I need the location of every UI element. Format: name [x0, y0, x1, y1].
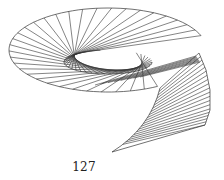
figure-chords	[9, 8, 210, 144]
page-number: 127	[72, 160, 96, 174]
spiral-line-figure	[0, 0, 224, 180]
